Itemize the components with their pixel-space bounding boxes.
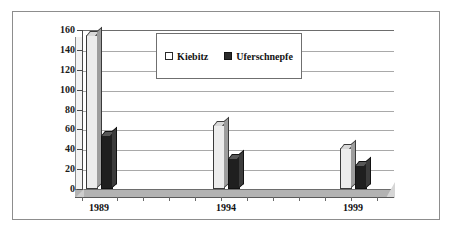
y-label-100-wrap: 100 (23, 85, 75, 95)
x-tick-5 (221, 197, 222, 201)
x-label-1989: 1989 (69, 202, 129, 214)
y-label-60-wrap: 60 (23, 124, 75, 134)
y-tick-label-100: 100 (29, 85, 75, 95)
y-tick-label-60: 60 (29, 124, 75, 134)
x-tick-8 (299, 197, 300, 201)
x-label-1994: 1994 (196, 202, 256, 214)
y-tick-label-80: 80 (29, 105, 75, 115)
y-tick-label-140: 140 (29, 45, 75, 55)
bar-kiebitz-1999 (340, 148, 352, 189)
legend-entry-kiebitz[interactable]: Kiebitz (165, 51, 208, 62)
y-tick-60 (77, 129, 83, 130)
y-tick-label-20: 20 (29, 164, 75, 174)
y-tick-160 (77, 30, 83, 31)
dark-square-icon (224, 52, 232, 60)
x-tick-6 (247, 197, 248, 201)
bar-kiebitz-1994 (213, 125, 225, 189)
y-tick-40 (77, 149, 83, 150)
bar-uferschnepfe-1999 (355, 165, 367, 189)
legend-label-kiebitz: Kiebitz (177, 51, 208, 62)
y-tick-label-120: 120 (29, 65, 75, 75)
x-tick-11 (377, 197, 378, 201)
chart-legend: Kiebitz Uferschnepfe (156, 33, 302, 79)
y-label-160-wrap: 160 (23, 25, 75, 35)
y-label-120-wrap: 120 (23, 65, 75, 75)
bar-uferschnepfe-1989 (101, 135, 113, 189)
bar-side-face (239, 150, 244, 188)
x-tick-4 (195, 197, 196, 201)
x-tick-9 (325, 197, 326, 201)
legend-entry-uferschnepfe[interactable]: Uferschnepfe (224, 51, 293, 62)
y-tick-20 (77, 169, 83, 170)
y-tick-80 (77, 110, 83, 111)
y-tick-100 (77, 90, 83, 91)
y-tick-140 (77, 50, 83, 51)
x-tick-2 (143, 197, 144, 201)
screenshot-root: 160 140 120 100 80 60 40 20 (0, 0, 452, 233)
plot-floor (75, 189, 394, 197)
x-label-1999: 1999 (323, 202, 383, 214)
y-label-0-wrap: 0 (23, 184, 75, 194)
x-tick-3 (169, 197, 170, 201)
plot-floor-front-edge (75, 197, 394, 198)
light-square-icon (165, 52, 173, 60)
bar-chart: 160 140 120 100 80 60 40 20 (13, 12, 441, 221)
bar-side-face (112, 127, 117, 188)
y-tick-120 (77, 70, 83, 71)
x-tick-0 (82, 197, 83, 201)
bar-kiebitz-1989 (86, 35, 98, 189)
legend-entries: Kiebitz Uferschnepfe (157, 34, 301, 78)
gridline-60 (83, 130, 394, 131)
y-label-80-wrap: 80 (23, 105, 75, 115)
y-label-40-wrap: 40 (23, 144, 75, 154)
gridline-80 (83, 111, 394, 112)
bar-side-face (366, 157, 371, 188)
x-tick-1 (117, 197, 118, 201)
y-tick-0 (77, 189, 83, 190)
gridline-100 (83, 91, 394, 92)
chart-frame: 160 140 120 100 80 60 40 20 (12, 11, 440, 220)
x-tick-10 (351, 197, 352, 201)
bar-uferschnepfe-1994 (228, 158, 240, 189)
y-label-20-wrap: 20 (23, 164, 75, 174)
y-tick-label-160: 160 (29, 25, 75, 35)
legend-label-uferschnepfe: Uferschnepfe (236, 51, 293, 62)
y-tick-label-0: 0 (29, 184, 75, 194)
x-tick-7 (273, 197, 274, 201)
y-label-140-wrap: 140 (23, 45, 75, 55)
y-tick-label-40: 40 (29, 144, 75, 154)
